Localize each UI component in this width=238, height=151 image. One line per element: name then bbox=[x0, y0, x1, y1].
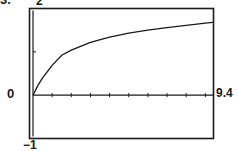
graph-plot bbox=[0, 0, 238, 151]
viewing-window-frame bbox=[30, 9, 214, 139]
function-curve bbox=[33, 22, 213, 95]
axes bbox=[33, 11, 213, 137]
